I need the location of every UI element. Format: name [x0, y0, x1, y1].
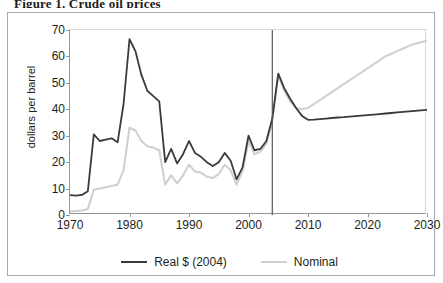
x-tick-label: 2000 — [235, 219, 262, 231]
x-tick-mark — [249, 213, 250, 217]
y-tick-mark — [66, 83, 70, 84]
y-tick-label: 70 — [52, 24, 65, 36]
x-tick-label: 1980 — [116, 219, 143, 231]
y-tick-label: 60 — [52, 50, 65, 62]
x-tick-label: 2010 — [295, 219, 322, 231]
y-tick-mark — [66, 109, 70, 110]
figure-frame: dollars per barrel 010203040506070 19701… — [7, 12, 435, 276]
x-tick-mark — [189, 213, 190, 217]
x-tick-mark — [368, 213, 369, 217]
legend-item: Nominal — [261, 256, 338, 268]
legend-line-swatch — [121, 261, 147, 263]
y-axis-label: dollars per barrel — [25, 42, 37, 172]
y-tick-mark — [66, 30, 70, 31]
legend-label: Real $ (2004) — [154, 256, 227, 268]
y-tick-mark — [66, 162, 70, 163]
legend-item: Real $ (2004) — [121, 256, 227, 268]
x-tick-mark — [130, 213, 131, 217]
y-tick-mark — [66, 56, 70, 57]
legend-label: Nominal — [294, 256, 338, 268]
series-line-nominal — [70, 41, 427, 212]
x-tick-label: 2030 — [414, 219, 441, 231]
figure-container: Figure 1. Crude oil prices dollars per b… — [0, 0, 443, 283]
legend-line-swatch — [261, 261, 287, 263]
plot-area: 010203040506070 197019801990200020102020… — [69, 29, 426, 214]
y-tick-label: 30 — [52, 130, 65, 142]
y-tick-mark — [66, 215, 70, 216]
y-tick-label: 40 — [52, 103, 65, 115]
figure-title: Figure 1. Crude oil prices — [14, 0, 414, 8]
chart-legend: Real $ (2004)Nominal — [8, 256, 443, 268]
x-tick-label: 1970 — [57, 219, 84, 231]
x-tick-label: 2020 — [354, 219, 381, 231]
y-tick-mark — [66, 136, 70, 137]
chart-canvas — [70, 30, 427, 215]
y-tick-label: 10 — [52, 183, 65, 195]
x-tick-mark — [308, 213, 309, 217]
x-tick-label: 1990 — [176, 219, 203, 231]
y-tick-label: 20 — [52, 156, 65, 168]
y-tick-mark — [66, 189, 70, 190]
y-tick-label: 50 — [52, 77, 65, 89]
x-tick-mark — [427, 213, 428, 217]
